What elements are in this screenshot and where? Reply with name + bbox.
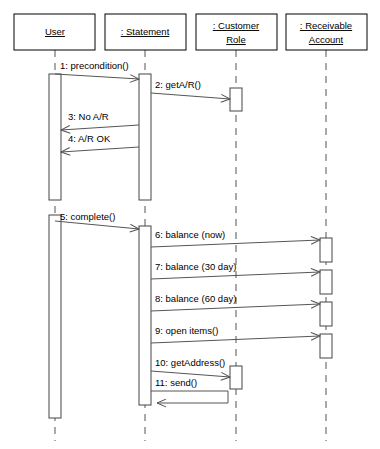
message-2-arrow (151, 93, 230, 99)
message-3-label: 3: No A/R (68, 111, 109, 122)
messages-layer: 1: precondition() 2: getA/R() 3: No A/R … (55, 60, 320, 403)
message-11-label: 11: send() (155, 377, 197, 388)
message-9-label: 9: open items() (155, 325, 218, 336)
message-6-label: 6: balance (now) (155, 229, 225, 240)
message-3-arrow (61, 125, 139, 130)
lifeline-statement-label: : Statement (121, 26, 170, 37)
message-8-arrow (151, 304, 320, 311)
activation-bar-statement-2[interactable] (139, 226, 151, 405)
lifeline-customer-role-label-line2: Role (226, 34, 246, 45)
activation-bar-receivable-account-4[interactable] (320, 334, 332, 358)
message-5-arrow (55, 221, 139, 229)
message-1-arrow (55, 74, 139, 79)
message-4-ar-ok[interactable]: 4: A/R OK (61, 133, 139, 152)
message-10-get-address[interactable]: 10: getAddress() (151, 357, 230, 377)
lifeline-receivable-account-label-line1: : Receivable (300, 20, 352, 31)
message-3-no-ar[interactable]: 3: No A/R (61, 111, 139, 130)
message-11-self-arrow (151, 391, 228, 403)
message-1-label: 1: precondition() (60, 60, 129, 71)
message-1-precondition[interactable]: 1: precondition() (55, 60, 139, 79)
message-11-send[interactable]: 11: send() (151, 377, 228, 403)
lifeline-receivable-account[interactable]: : Receivable Account (286, 14, 367, 441)
sequence-diagram: User : Statement : Customer Role : Recei… (0, 0, 380, 449)
message-5-complete[interactable]: 5: complete() (55, 211, 139, 229)
activation-bar-customer-role-1[interactable] (230, 88, 242, 111)
message-4-arrow (61, 147, 139, 152)
activation-bar-statement-1[interactable] (139, 74, 151, 200)
message-8-label: 8: balance (60 day) (155, 293, 236, 304)
activation-bar-receivable-account-3[interactable] (320, 302, 332, 326)
activation-bar-receivable-account-1[interactable] (320, 238, 332, 262)
lifeline-customer-role-label-line1: : Customer (213, 20, 259, 31)
sequence-diagram-canvas: User : Statement : Customer Role : Recei… (0, 0, 380, 449)
message-8-balance-60-day[interactable]: 8: balance (60 day) (151, 293, 320, 311)
activation-bar-user-1[interactable] (49, 74, 61, 200)
message-2-get-ar[interactable]: 2: getA/R() (151, 79, 230, 99)
message-7-label: 7: balance (30 day) (155, 261, 236, 272)
activation-bar-user-2[interactable] (49, 215, 61, 418)
lifeline-receivable-account-label-line2: Account (309, 34, 344, 45)
message-5-label: 5: complete() (60, 211, 115, 222)
lifeline-user-label: User (45, 26, 65, 37)
message-2-label: 2: getA/R() (155, 79, 201, 90)
message-4-label: 4: A/R OK (68, 133, 111, 144)
message-10-label: 10: getAddress() (155, 357, 225, 368)
activation-bar-receivable-account-2[interactable] (320, 270, 332, 294)
activation-bar-customer-role-2[interactable] (230, 366, 242, 389)
